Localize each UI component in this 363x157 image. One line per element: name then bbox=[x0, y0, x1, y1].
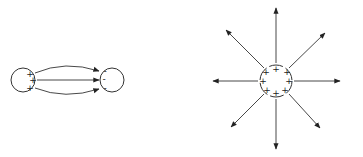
minus-charge: - bbox=[103, 83, 106, 93]
electric-field-figure: + + + - - - + + + + + + + + bbox=[0, 0, 363, 157]
field-line-bottom bbox=[35, 88, 99, 94]
field-line-down-right bbox=[289, 94, 320, 128]
plus-charge: + bbox=[281, 85, 289, 95]
plus-charge: + bbox=[272, 64, 280, 74]
plus-charge: + bbox=[272, 88, 280, 98]
field-line-up-left bbox=[226, 30, 264, 68]
plus-charge: + bbox=[26, 83, 34, 93]
radial-field-diagram: + + + + + + + + bbox=[213, 8, 340, 149]
dipole-diagram: + + + - - - bbox=[11, 66, 124, 94]
field-line-down-left bbox=[231, 94, 264, 127]
field-line-top bbox=[35, 66, 99, 73]
plus-charge: + bbox=[263, 85, 271, 95]
field-line-up-right bbox=[289, 33, 325, 68]
